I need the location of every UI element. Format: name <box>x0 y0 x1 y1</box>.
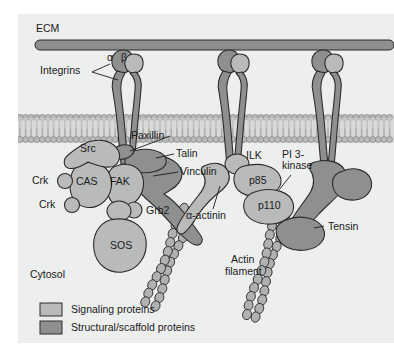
label-sos: SOS <box>110 240 132 251</box>
legend-label-signaling: Signaling proteins <box>71 304 154 315</box>
ecm-bar <box>35 40 394 50</box>
label-vinculin: Vinculin <box>180 166 217 177</box>
label-grb2: Grb2 <box>146 205 169 216</box>
legend-swatches <box>40 303 62 334</box>
label-pi3kinase-line2: kinase <box>282 160 312 171</box>
label-integrins: Integrins <box>40 65 80 76</box>
crk-protein-lower <box>65 198 80 213</box>
label-beta-subunit: β <box>121 52 127 63</box>
crk-protein-upper <box>58 174 73 189</box>
label-alpha-actinin: α-actinin <box>186 210 226 221</box>
label-actin-line1: Actin <box>231 254 254 265</box>
label-fak: FAK <box>110 176 130 187</box>
label-actin-line2: filament <box>225 266 262 277</box>
figure-panel: ECM Integrins α β Paxillin Talin Vinculi… <box>18 14 394 343</box>
grb2-protein <box>107 201 142 221</box>
label-cas: CAS <box>76 176 98 187</box>
label-crk-lower: Crk <box>39 199 55 210</box>
label-tensin: Tensin <box>328 221 358 232</box>
label-paxillin: Paxillin <box>131 130 164 141</box>
label-ecm: ECM <box>36 23 59 34</box>
label-p85: p85 <box>249 175 267 186</box>
integrin-dimer-2 <box>218 50 249 167</box>
label-talin: Talin <box>176 148 198 159</box>
label-crk-upper: Crk <box>32 175 48 186</box>
label-ilk: ILK <box>246 150 262 161</box>
label-cytosol: Cytosol <box>30 269 65 280</box>
legend-label-structural: Structural/scaffold proteins <box>71 322 195 333</box>
integrin-dimer-3 <box>312 50 343 167</box>
focal-adhesion-figure: ECM Integrins α β Paxillin Talin Vinculi… <box>0 0 394 359</box>
label-src: Src <box>80 143 96 154</box>
label-p110: p110 <box>258 200 281 211</box>
label-alpha-subunit: α <box>107 52 113 63</box>
